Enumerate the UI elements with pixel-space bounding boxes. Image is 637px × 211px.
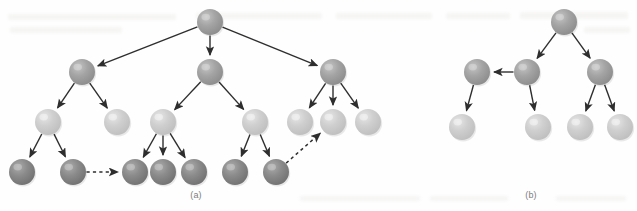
- tree-node-light-internal: [35, 109, 61, 135]
- tree-edge-solid: [223, 27, 318, 66]
- tree-node-medium-internal: [320, 59, 346, 85]
- node-specular-highlight: [226, 164, 235, 171]
- tree-edge-solid: [143, 134, 156, 157]
- tree-edge-solid: [530, 85, 535, 110]
- node-specular-highlight: [571, 119, 580, 126]
- node-specular-highlight: [591, 64, 600, 71]
- tree-node-light-leaf: [607, 114, 633, 140]
- tree-node-medium-internal: [69, 59, 95, 85]
- tree-node-light-leaf: [320, 109, 346, 135]
- node-specular-highlight: [73, 64, 82, 71]
- tree-edge-solid: [170, 133, 185, 157]
- tree-node-light-internal: [242, 109, 268, 135]
- node-specular-highlight: [453, 119, 462, 126]
- node-specular-highlight: [39, 114, 48, 121]
- tree-edge-solid: [241, 135, 250, 157]
- tree-edge-solid: [98, 27, 198, 66]
- tree-diagram-canvas: [0, 0, 637, 211]
- tree-edge-solid: [586, 85, 596, 111]
- tree-node-medium-internal: [464, 59, 490, 85]
- tree-edge-solid: [572, 33, 590, 58]
- tree-edge-solid: [341, 83, 359, 108]
- node-specular-highlight: [13, 164, 22, 171]
- node-specular-highlight: [324, 64, 333, 71]
- tree-edge-solid: [260, 134, 269, 156]
- tree-node-medium-internal: [514, 59, 540, 85]
- tree-edge-solid: [175, 82, 201, 110]
- tree-node-dark-leaf: [60, 159, 86, 185]
- figure-container: (a) (b): [0, 0, 637, 211]
- tree-node-dark-leaf: [222, 159, 248, 185]
- tree-node-light-leaf: [567, 114, 593, 140]
- tree-node-light-leaf: [355, 109, 381, 135]
- node-specular-highlight: [201, 14, 210, 21]
- tree-edge-solid: [466, 85, 473, 111]
- node-specular-highlight: [246, 114, 255, 121]
- tree-edge-solid: [58, 83, 75, 108]
- tree-edge-solid: [90, 83, 108, 108]
- tree-node-medium-internal: [587, 59, 613, 85]
- tree-edge-solid: [309, 83, 325, 108]
- tree-node-dark-leaf: [150, 159, 176, 185]
- tree-node-light-leaf: [525, 114, 551, 140]
- tree-node-medium-internal: [197, 59, 223, 85]
- node-specular-highlight: [185, 164, 194, 171]
- tree-edge-solid: [537, 33, 556, 58]
- tree-edge-solid: [30, 134, 42, 157]
- node-specular-highlight: [154, 164, 163, 171]
- node-specular-highlight: [291, 114, 300, 121]
- tree-node-dark-leaf: [263, 159, 289, 185]
- panel-b-caption: (b): [525, 190, 537, 200]
- tree-node-light-leaf: [449, 114, 475, 140]
- tree-node-dark-leaf: [181, 159, 207, 185]
- node-specular-highlight: [201, 64, 210, 71]
- tree-node-light-leaf: [287, 109, 313, 135]
- tree-node-medium-root: [551, 9, 577, 35]
- node-specular-highlight: [518, 64, 527, 71]
- node-specular-highlight: [555, 14, 564, 21]
- node-specular-highlight: [154, 114, 163, 121]
- node-specular-highlight: [64, 164, 73, 171]
- node-specular-highlight: [611, 119, 620, 126]
- tree-edge-solid: [219, 82, 244, 109]
- tree-node-light-internal: [150, 109, 176, 135]
- node-specular-highlight: [529, 119, 538, 126]
- tree-edge-solid: [54, 134, 65, 157]
- node-layer: [9, 9, 634, 187]
- tree-node-light-leaf: [104, 109, 130, 135]
- panel-a-caption: (a): [190, 190, 202, 200]
- tree-edge-dashed: [286, 133, 320, 163]
- node-specular-highlight: [324, 114, 333, 121]
- node-specular-highlight: [468, 64, 477, 71]
- tree-node-dark-leaf: [9, 159, 35, 185]
- node-specular-highlight: [267, 164, 276, 171]
- tree-node-medium-root: [197, 9, 223, 35]
- node-specular-highlight: [359, 114, 368, 121]
- tree-edge-solid: [605, 85, 615, 111]
- edge-layer: [30, 27, 614, 172]
- node-specular-highlight: [108, 114, 117, 121]
- node-specular-highlight: [126, 164, 135, 171]
- tree-node-dark-leaf: [122, 159, 148, 185]
